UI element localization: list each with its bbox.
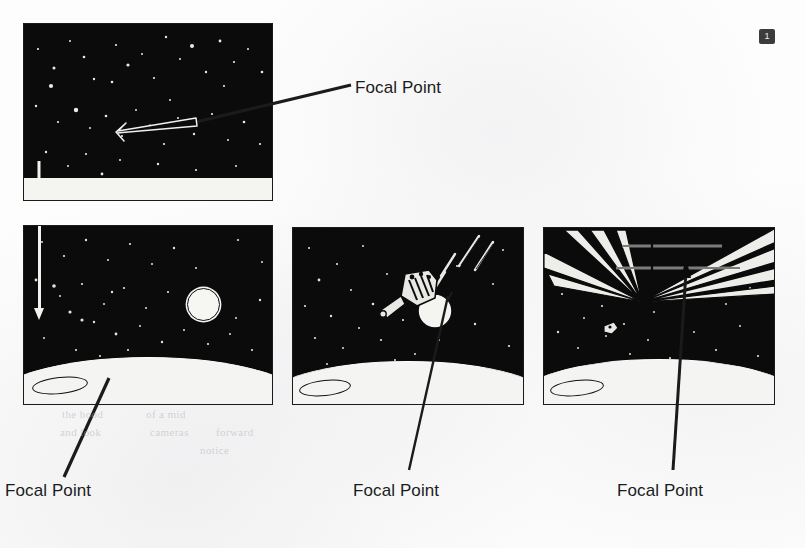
starfield-upper-left [24,24,273,201]
converging-perspective-panel [543,227,775,405]
focal-point-label-bottom-middle: Focal Point [353,481,439,501]
white-down-arrow-shaft [38,226,41,310]
focal-point-label-bottom-right: Focal Point [617,481,703,501]
ghost-text: the hood [62,408,103,420]
deep-space-starfield-panel [23,23,273,201]
focal-point-label-top: Focal Point [355,78,441,98]
ghost-text: and look [60,426,101,438]
page-number-badge: 1 [759,29,775,44]
white-highlight-band [24,178,273,201]
planet-limb-with-moon-panel [23,225,273,405]
ghost-text: of a mid [146,408,186,420]
white-down-arrow-head [34,308,44,320]
motion-streak-cores [461,238,493,269]
perspective-beams [544,228,775,302]
spacecraft-approach-panel [292,227,524,405]
ghost-text: cameras [150,426,189,438]
ghost-text: notice [200,444,229,456]
moon-disc [187,288,220,321]
spacecraft [380,270,437,318]
moon-disc-middle [418,294,452,328]
ghost-text: forward [216,426,254,438]
page-root: the hood of a mid and look cameras forwa… [0,0,805,548]
small-craft [604,322,618,334]
motion-streaks [435,236,493,288]
focal-point-label-bottom-left: Focal Point [5,481,91,501]
